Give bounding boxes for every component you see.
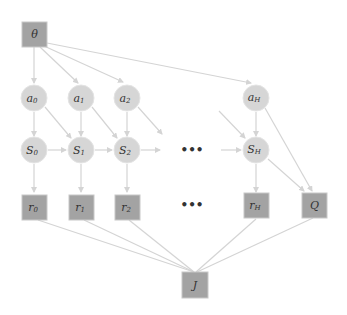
- edges-state-reward: [34, 164, 256, 192]
- node-a0: a0: [21, 85, 47, 111]
- edge-theta-a2: [44, 46, 123, 82]
- edge-r0-J: [38, 220, 194, 272]
- node-S2: S2: [114, 137, 140, 163]
- graphical-model-diagram: θ a0 a1 a2 aH S0 S1 S2 SH ••• ••• r0: [0, 0, 347, 315]
- node-r0: r0: [22, 195, 47, 220]
- edge-a1-S2: [92, 107, 117, 138]
- node-r1: r1: [69, 195, 94, 220]
- edges-reward-objective: [38, 218, 313, 272]
- node-S0: S0: [21, 137, 47, 163]
- node-a1: a1: [68, 85, 94, 111]
- node-theta: θ: [22, 22, 47, 47]
- edge-rH-J: [196, 219, 256, 272]
- ellipsis-rewards: •••: [180, 198, 203, 212]
- edge-Q-J: [197, 218, 313, 272]
- edges-theta: [34, 43, 251, 83]
- svg-text:J: J: [191, 279, 198, 292]
- edge-theta-aH: [47, 43, 251, 83]
- svg-text:Q: Q: [310, 199, 319, 212]
- ellipsis-states: •••: [180, 143, 203, 157]
- node-J: J: [182, 272, 208, 298]
- node-aH: aH: [243, 85, 269, 111]
- node-r2: r2: [115, 195, 140, 220]
- node-SH: SH: [243, 137, 269, 163]
- edge-a2-next: [138, 107, 162, 134]
- node-a2: a2: [114, 85, 140, 111]
- edge-a0-S1: [45, 107, 71, 138]
- node-S1: S1: [68, 137, 94, 163]
- edge-SH-Q: [268, 159, 304, 191]
- node-rH: rH: [244, 193, 269, 218]
- edge-prev-SH: [219, 111, 245, 138]
- edge-aH-Q: [265, 108, 312, 191]
- node-theta-label: θ: [31, 28, 38, 41]
- node-Q: Q: [302, 193, 327, 218]
